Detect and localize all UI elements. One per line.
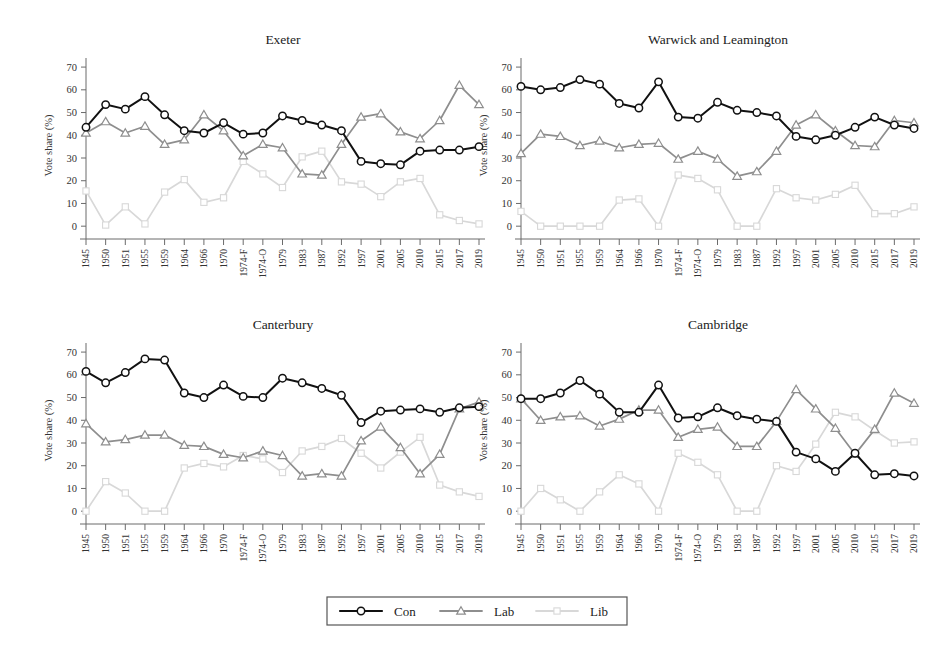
data-point-marker — [773, 112, 780, 119]
y-axis-title: Vote share (%) — [478, 114, 490, 177]
data-point-marker — [694, 115, 701, 122]
data-point-marker — [358, 450, 364, 456]
data-point-marker — [259, 394, 266, 401]
data-point-marker — [181, 389, 188, 396]
x-tick-label: 2001 — [811, 534, 821, 553]
x-tick-label: 1951 — [121, 534, 131, 553]
data-point-marker — [911, 204, 917, 210]
data-point-marker — [417, 434, 423, 440]
data-point-marker — [279, 375, 286, 382]
data-point-marker — [161, 111, 168, 118]
data-point-marker — [557, 389, 564, 396]
data-point-marker — [220, 464, 226, 470]
data-point-marker — [377, 407, 384, 414]
series-lib — [83, 148, 482, 228]
y-tick-label: 20 — [502, 175, 513, 186]
x-tick-label: 2001 — [811, 249, 821, 268]
data-point-marker — [397, 161, 404, 168]
data-point-marker — [793, 195, 799, 201]
data-point-marker — [694, 147, 703, 154]
x-tick-label: 1974-O — [258, 249, 268, 278]
data-point-marker — [141, 355, 148, 362]
x-tick-label: 1987 — [317, 249, 327, 268]
data-point-marker — [181, 127, 188, 134]
panel-title: Cambridge — [688, 317, 748, 332]
x-tick-label: 1964 — [180, 534, 190, 553]
x-tick-label: 1959 — [160, 249, 170, 268]
data-point-marker — [832, 132, 839, 139]
x-tick-label: 1955 — [140, 534, 150, 553]
data-point-marker — [338, 435, 344, 441]
data-point-marker — [655, 508, 661, 514]
data-point-marker — [200, 394, 207, 401]
data-point-marker — [537, 395, 544, 402]
data-point-marker — [83, 188, 89, 194]
data-point-marker — [675, 172, 681, 178]
data-point-marker — [754, 508, 760, 514]
data-point-marker — [103, 479, 109, 485]
x-tick-label: 1945 — [81, 534, 91, 553]
x-tick-label: 1955 — [140, 249, 150, 268]
data-point-marker — [616, 100, 623, 107]
data-point-marker — [299, 154, 305, 160]
data-point-marker — [259, 447, 268, 454]
y-tick-label: 70 — [502, 347, 513, 358]
legend-label-con: Con — [394, 604, 416, 619]
data-point-marker — [299, 448, 305, 454]
y-tick-label: 40 — [502, 415, 513, 426]
data-point-marker — [793, 468, 799, 474]
x-tick-label: 1950 — [536, 534, 546, 553]
data-point-marker — [910, 472, 917, 479]
y-tick-label: 70 — [67, 62, 78, 73]
x-tick-label: 1992 — [772, 249, 782, 268]
data-point-marker — [714, 404, 721, 411]
data-point-marker — [557, 497, 563, 503]
x-tick-label: 2019 — [909, 534, 919, 553]
x-tick-label: 1959 — [595, 249, 605, 268]
chart-panel-warwick-and-leamington: Warwick and Leamington010203040506070Vot… — [478, 32, 920, 278]
data-point-marker — [318, 385, 325, 392]
y-axis-title: Vote share (%) — [43, 399, 55, 462]
y-tick-label: 30 — [502, 438, 513, 449]
data-point-marker — [455, 81, 464, 88]
x-tick-label: 1983 — [733, 249, 743, 268]
data-point-marker — [259, 129, 266, 136]
x-tick-label: 1979 — [278, 249, 288, 268]
data-point-marker — [891, 211, 897, 217]
chart-panel-canterbury: Canterbury010203040506070Vote share (%)1… — [43, 317, 485, 563]
panel-title: Warwick and Leamington — [648, 32, 788, 47]
data-point-marker — [456, 404, 463, 411]
data-point-marker — [142, 221, 148, 227]
y-tick-label: 30 — [67, 438, 78, 449]
data-point-marker — [911, 439, 917, 445]
x-tick-label: 1964 — [615, 534, 625, 553]
data-point-marker — [734, 508, 740, 514]
data-point-marker — [357, 158, 364, 165]
data-point-marker — [518, 208, 524, 214]
x-tick-label: 2017 — [455, 249, 465, 268]
data-point-marker — [891, 440, 897, 446]
data-point-marker — [122, 204, 128, 210]
x-tick-label: 1945 — [516, 534, 526, 553]
x-tick-label: 1959 — [595, 534, 605, 553]
data-point-marker — [220, 195, 226, 201]
data-point-marker — [597, 489, 603, 495]
data-point-marker — [714, 99, 721, 106]
data-point-marker — [376, 423, 385, 430]
data-point-marker — [635, 409, 642, 416]
data-point-marker — [338, 179, 344, 185]
series-con — [82, 355, 482, 426]
data-point-marker — [279, 184, 285, 190]
data-point-marker — [476, 493, 482, 499]
data-point-marker — [695, 459, 701, 465]
x-tick-label: 1974-F — [674, 534, 684, 561]
data-point-marker — [754, 223, 760, 229]
data-point-marker — [141, 122, 150, 129]
x-tick-label: 1992 — [337, 249, 347, 268]
x-tick-label: 2010 — [850, 534, 860, 553]
data-point-marker — [122, 490, 128, 496]
x-tick-label: 2015 — [435, 249, 445, 268]
x-tick-label: 1950 — [101, 249, 111, 268]
data-point-marker — [538, 485, 544, 491]
data-point-marker — [318, 121, 325, 128]
